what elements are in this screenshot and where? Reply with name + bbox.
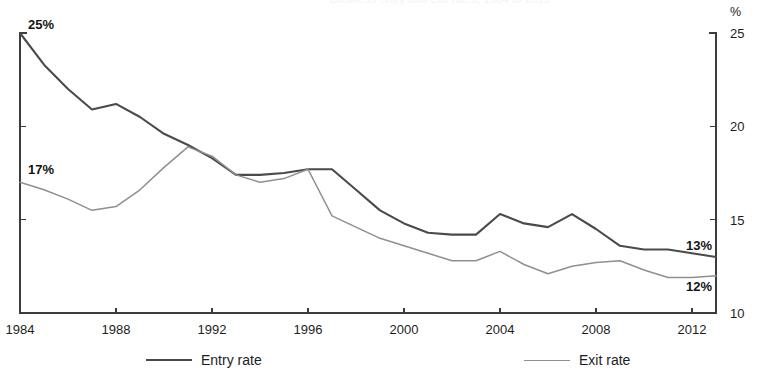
legend-item-exit-rate[interactable]: Exit rate xyxy=(524,352,630,368)
data-point-label: 13% xyxy=(686,238,712,253)
axes xyxy=(20,33,716,313)
x-tick-label: 2012 xyxy=(678,322,707,337)
chart-legend: Entry rate Exit rate xyxy=(0,344,780,378)
data-point-label: 25% xyxy=(28,17,54,32)
line-chart: 10152025%1984198819921996200020042008201… xyxy=(0,0,780,340)
chart-figure: Business entry and exit rates, 1984 to 2… xyxy=(0,0,780,378)
plot-area: 10152025%1984198819921996200020042008201… xyxy=(0,0,780,340)
data-series xyxy=(20,33,716,278)
x-tick-label: 2004 xyxy=(486,322,515,337)
axis-frame xyxy=(20,33,716,313)
axis-labels: 10152025%1984198819921996200020042008201… xyxy=(6,5,745,337)
data-annotations: 25%17%13%12% xyxy=(28,17,712,294)
legend-swatch-entry-rate xyxy=(146,359,192,361)
x-tick-label: 1988 xyxy=(102,322,131,337)
x-tick-label: 1984 xyxy=(6,322,35,337)
legend-item-entry-rate[interactable]: Entry rate xyxy=(146,352,262,368)
y-tick-label: 25 xyxy=(730,26,744,41)
legend-label-exit-rate: Exit rate xyxy=(579,352,630,368)
series-line-exit-rate xyxy=(20,147,716,278)
y-tick-label: 10 xyxy=(730,306,744,321)
y-tick-label: 15 xyxy=(730,213,744,228)
legend-swatch-exit-rate xyxy=(524,360,570,361)
series-line-entry-rate xyxy=(20,33,716,257)
x-tick-label: 2008 xyxy=(582,322,611,337)
x-tick-label: 1992 xyxy=(198,322,227,337)
x-tick-label: 1996 xyxy=(294,322,323,337)
data-point-label: 12% xyxy=(686,279,712,294)
data-point-label: 17% xyxy=(28,162,54,177)
x-tick-label: 2000 xyxy=(390,322,419,337)
y-tick-label: 20 xyxy=(730,119,744,134)
legend-label-entry-rate: Entry rate xyxy=(201,352,262,368)
y-axis-unit-label: % xyxy=(730,5,741,19)
